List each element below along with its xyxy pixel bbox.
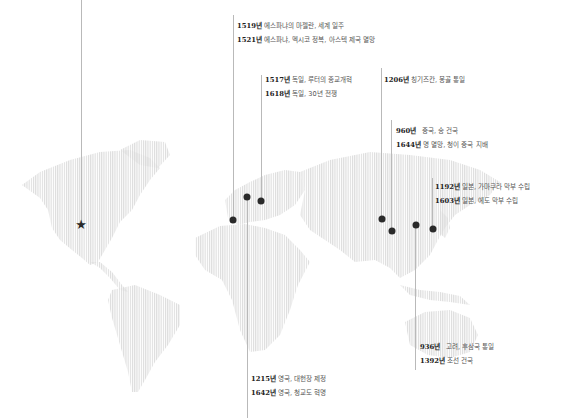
event-year: 936년	[420, 340, 444, 354]
connector-line-england	[247, 197, 248, 418]
event-year: 1517년	[265, 73, 290, 87]
connector-line-mongol	[381, 68, 382, 219]
marker-japan[interactable]	[430, 226, 437, 233]
event-year: 1642년	[251, 386, 276, 400]
event-year: 1206년	[384, 73, 409, 87]
event-text: 일본, 에도 막부 수립	[462, 197, 518, 205]
event-text: 에스파냐, 멕시코 정복, 아스텍 제국 멸망	[264, 36, 375, 44]
se-asia-islands	[400, 285, 470, 305]
event-text: 영국, 청교도 혁명	[278, 389, 326, 397]
event-text: 독일, 루터의 종교개혁	[292, 76, 352, 84]
event-row: 1603년 일본, 에도 막부 수립	[435, 194, 530, 208]
event-year: 1215년	[251, 372, 276, 386]
event-label-korea: 936년 고려, 후삼국 통일 1392년 조선 건국	[420, 340, 494, 368]
event-row: 1206년 칭기즈칸, 몽골 통일	[384, 73, 465, 87]
event-row: 936년 고려, 후삼국 통일	[420, 340, 494, 354]
asia	[300, 152, 500, 278]
event-row: 1642년 영국, 청교도 혁명	[251, 386, 326, 400]
marker-china[interactable]	[389, 228, 396, 235]
event-text: 일본, 가마쿠라 막부 수립	[462, 183, 530, 191]
event-label-mongol: 1206년 칭기즈칸, 몽골 통일	[384, 73, 465, 87]
marker-korea[interactable]	[413, 222, 420, 229]
connector-line-china	[391, 120, 392, 231]
marker-mongol[interactable]	[379, 216, 386, 223]
event-text: 명 멸망, 청이 중국 지배	[423, 141, 487, 149]
connector-line-korea	[415, 225, 416, 370]
connector-line-origin	[81, 0, 82, 224]
event-year: 1392년	[420, 354, 445, 368]
event-year: 960년	[396, 124, 420, 138]
event-text: 고려, 후삼국 통일	[446, 343, 494, 351]
event-label-china: 960년 중국, 송 건국 1644년 명 멸망, 청이 중국 지배	[396, 124, 488, 152]
event-text: 독일, 30년 전쟁	[292, 90, 337, 98]
event-year: 1192년	[435, 180, 460, 194]
marker-spain[interactable]	[230, 217, 237, 224]
event-text: 에스파냐의 마젤란, 세계 일주	[264, 22, 344, 30]
south-america	[108, 285, 180, 392]
event-label-england: 1215년 영국, 대헌장 제정 1642년 영국, 청교도 혁명	[251, 372, 326, 400]
event-label-germany: 1517년 독일, 루터의 종교개혁 1618년 독일, 30년 전쟁	[265, 73, 352, 101]
event-row: 960년 중국, 송 건국	[396, 124, 488, 138]
marker-england[interactable]	[244, 194, 251, 201]
event-year: 1603년	[435, 194, 460, 208]
event-year: 1618년	[265, 87, 290, 101]
connector-line-japan	[432, 178, 433, 229]
event-row: 1521년 에스파냐, 멕시코 정복, 아스텍 제국 멸망	[237, 33, 375, 47]
event-label-spain: 1519년 에스파냐의 마젤란, 세계 일주 1521년 에스파냐, 멕시코 정…	[237, 19, 375, 47]
event-text: 영국, 대헌장 제정	[278, 375, 326, 383]
event-row: 1644년 명 멸망, 청이 중국 지배	[396, 138, 488, 152]
europe	[225, 170, 305, 225]
event-row: 1519년 에스파냐의 마젤란, 세계 일주	[237, 19, 375, 33]
event-text: 조선 건국	[447, 357, 473, 365]
event-year: 1521년	[237, 33, 262, 47]
event-text: 칭기즈칸, 몽골 통일	[411, 76, 465, 84]
event-text: 중국, 송 건국	[422, 127, 458, 135]
event-row: 1517년 독일, 루터의 종교개혁	[265, 73, 352, 87]
event-row: 1215년 영국, 대헌장 제정	[251, 372, 326, 386]
event-row: 1392년 조선 건국	[420, 354, 494, 368]
marker-germany[interactable]	[258, 198, 265, 205]
central-america	[90, 262, 128, 292]
event-row: 1192년 일본, 가마쿠라 막부 수립	[435, 180, 530, 194]
event-year: 1519년	[237, 19, 262, 33]
connector-line-spain	[233, 15, 234, 220]
connector-line-germany	[261, 75, 262, 201]
star-icon: ★	[75, 218, 87, 231]
event-row: 1618년 독일, 30년 전쟁	[265, 87, 352, 101]
event-label-japan: 1192년 일본, 가마쿠라 막부 수립 1603년 일본, 에도 막부 수립	[435, 180, 530, 208]
africa	[195, 224, 310, 352]
event-year: 1644년	[396, 138, 421, 152]
north-america	[22, 150, 160, 265]
